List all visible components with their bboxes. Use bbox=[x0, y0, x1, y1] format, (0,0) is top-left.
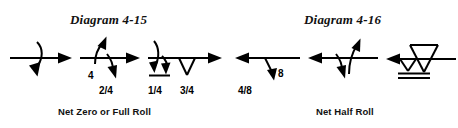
figure-full-roll-symbol bbox=[8, 36, 78, 84]
arrowhead-curve-up bbox=[352, 39, 361, 53]
arrowhead-curve-down bbox=[108, 65, 118, 79]
label-fraction-4-8: 4/8 bbox=[238, 85, 252, 96]
caption-net-zero-or-full-roll: Net Zero or Full Roll bbox=[58, 106, 151, 117]
arrowhead-left bbox=[235, 53, 249, 64]
figure-opposing-quarter-rolls-symbol bbox=[306, 34, 384, 86]
diagram-title-4-15: Diagram 4-15 bbox=[70, 12, 147, 28]
label-fraction-1-4: 1/4 bbox=[148, 85, 162, 96]
inverted-v-marker bbox=[179, 58, 195, 75]
figure-half-roll-eight-point-symbol bbox=[234, 44, 306, 84]
aresti-symbol-sheet: Diagram 4-15 4 bbox=[0, 0, 458, 128]
inverted-triangle-small bbox=[400, 59, 416, 71]
label-fraction-2-4: 2/4 bbox=[99, 85, 113, 96]
arrowhead-curve-down-second bbox=[161, 63, 171, 75]
arrowhead-right bbox=[126, 53, 140, 64]
arrowhead-tick-down bbox=[267, 68, 277, 81]
figure-quarter-three-quarter-roll-symbol bbox=[148, 36, 230, 84]
figure-snap-roll-triangle-symbol bbox=[386, 38, 458, 84]
arrowhead-curve-down-first bbox=[149, 61, 159, 74]
diagram-title-4-16: Diagram 4-16 bbox=[304, 12, 381, 28]
arrowhead-curve-down bbox=[29, 62, 41, 77]
caption-net-half-roll: Net Half Roll bbox=[316, 106, 374, 117]
label-fraction-3-4: 3/4 bbox=[180, 85, 194, 96]
arrowhead-left bbox=[308, 53, 322, 64]
label-roll-rate-8: 8 bbox=[278, 68, 284, 79]
arrowhead-right bbox=[208, 53, 222, 64]
arrowhead-curve-down bbox=[337, 65, 347, 79]
label-roll-rate-4: 4 bbox=[88, 70, 94, 81]
arrowhead-right bbox=[58, 53, 72, 64]
arrowhead-left bbox=[386, 54, 400, 65]
